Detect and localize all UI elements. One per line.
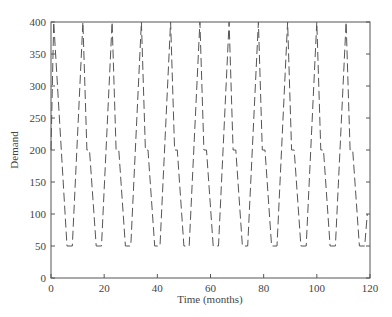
x-tick-label: 120 bbox=[362, 282, 379, 294]
x-axis-ticks: 020406080100120 bbox=[48, 274, 379, 294]
y-tick-label: 50 bbox=[35, 240, 47, 252]
y-tick-label: 0 bbox=[41, 272, 47, 284]
y-tick-label: 350 bbox=[30, 48, 47, 60]
y-axis-label: Demand bbox=[8, 131, 20, 169]
demand-line bbox=[51, 22, 367, 246]
x-tick-label: 0 bbox=[48, 282, 54, 294]
y-tick-label: 400 bbox=[30, 16, 47, 28]
y-axis-ticks: 050100150200250300350400 bbox=[30, 16, 371, 284]
y-tick-label: 100 bbox=[30, 208, 47, 220]
demand-chart: 020406080100120 050100150200250300350400… bbox=[0, 0, 392, 317]
y-tick-label: 300 bbox=[30, 80, 47, 92]
x-tick-label: 80 bbox=[258, 282, 270, 294]
y-tick-label: 250 bbox=[30, 112, 47, 124]
demand-series bbox=[51, 22, 367, 246]
x-tick-label: 100 bbox=[309, 282, 326, 294]
x-tick-label: 40 bbox=[152, 282, 164, 294]
x-tick-label: 20 bbox=[99, 282, 111, 294]
x-axis-label: Time (months) bbox=[177, 293, 243, 306]
y-tick-label: 200 bbox=[30, 144, 47, 156]
y-tick-label: 150 bbox=[30, 176, 47, 188]
